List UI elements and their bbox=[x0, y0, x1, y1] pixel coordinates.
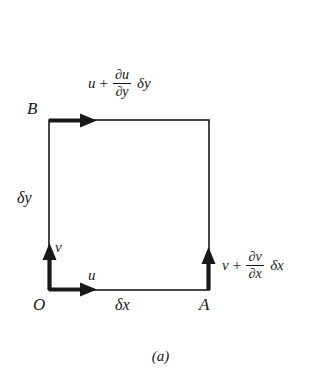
expr-top-numerator: ∂u bbox=[113, 68, 131, 83]
velocity-expression-right: v + ∂v ∂x δx bbox=[222, 250, 284, 282]
expr-right-fraction: ∂v ∂x bbox=[246, 250, 264, 282]
velocity-expression-top: u + ∂u ∂y δy bbox=[88, 68, 151, 100]
expr-right-numerator: ∂v bbox=[247, 250, 264, 265]
vertex-label-b: B bbox=[27, 100, 37, 117]
expr-top-tail: δy bbox=[137, 75, 151, 92]
expr-right-base: v bbox=[222, 257, 229, 274]
velocity-label-u-bottom: u bbox=[88, 268, 96, 283]
expr-top-operator: + bbox=[100, 75, 108, 92]
expr-right-tail: δx bbox=[270, 257, 284, 274]
top-velocity-arrow bbox=[49, 114, 97, 128]
velocity-label-v-left: v bbox=[55, 240, 62, 255]
expr-right-operator: + bbox=[233, 257, 241, 274]
bottom-velocity-arrow bbox=[49, 283, 97, 297]
expr-top-fraction: ∂u ∂y bbox=[113, 68, 131, 100]
figure-caption: (a) bbox=[0, 348, 321, 365]
dimension-label-delta-y: δy bbox=[17, 190, 32, 206]
expr-right-denominator: ∂x bbox=[247, 266, 264, 281]
expr-top-base: u bbox=[88, 75, 96, 92]
vertex-label-o: O bbox=[33, 296, 45, 313]
right-velocity-arrow bbox=[202, 247, 216, 290]
fluid-element-diagram bbox=[0, 0, 321, 379]
element-rectangle bbox=[49, 120, 209, 290]
expr-top-denominator: ∂y bbox=[113, 84, 130, 99]
vertex-label-a: A bbox=[199, 296, 209, 313]
dimension-label-delta-x: δx bbox=[115, 297, 130, 313]
